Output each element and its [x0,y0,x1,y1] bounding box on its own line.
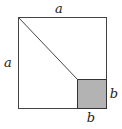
diagonal-line [19,18,78,80]
label-right-b: b [110,86,118,101]
label-bottom-b: b [87,110,95,125]
label-left-a: a [4,55,12,70]
label-top-a: a [55,1,63,16]
shaded-square [78,80,107,109]
square-diagram: a a b b [0,0,122,129]
